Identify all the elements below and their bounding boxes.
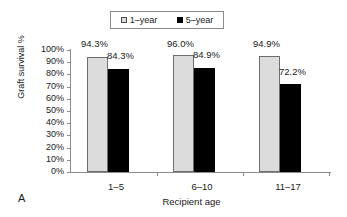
legend-label-5-year: 5–year	[186, 16, 214, 25]
x-axis-title: Recipient age	[0, 196, 347, 207]
bar-5year-group-11-17	[280, 84, 301, 172]
y-tick-label-30: 30%	[46, 129, 64, 139]
y-tick-label-100: 100%	[41, 44, 64, 54]
bar-1year-group-11-17	[259, 56, 280, 172]
bar-1year-group-6-10	[173, 55, 194, 172]
bar-1year-group-1-5	[87, 57, 108, 172]
bar-value-1year-group-6-10: 96.0%	[167, 38, 194, 49]
y-tick-label-80: 80%	[46, 68, 64, 78]
bar-value-5year-group-11-17: 72.2%	[279, 66, 306, 77]
x-tick-label-6-10: 6–10	[173, 181, 231, 192]
y-tick-label-40: 40%	[46, 117, 64, 127]
panel-label: A	[18, 192, 25, 204]
x-tick-label-1-5: 1–5	[87, 181, 145, 192]
legend-swatch-dark-icon	[177, 17, 183, 23]
y-tick-label-70: 70%	[46, 81, 64, 91]
y-tick-label-60: 60%	[46, 93, 64, 103]
bar-value-1year-group-1-5: 94.3%	[81, 38, 108, 49]
bar-value-5year-group-1-5: 84.3%	[107, 50, 134, 61]
y-tick-label-20: 20%	[46, 142, 64, 152]
x-separator-tick-2	[243, 172, 244, 176]
plot-area: 0% 10% 20% 30% 40% 50% 60% 70%	[71, 50, 330, 172]
x-separator-tick-3	[329, 172, 330, 176]
bar-5year-group-1-5	[108, 69, 129, 172]
legend-swatch-light-icon	[121, 17, 127, 23]
legend-entry-5-year: 5–year	[177, 16, 214, 25]
y-tick-label-0: 0%	[51, 166, 64, 176]
y-tick-label-90: 90%	[46, 56, 64, 66]
bar-value-1year-group-11-17: 94.9%	[253, 38, 280, 49]
y-tick-label-10: 10%	[46, 154, 64, 164]
chart-legend: 1–year 5–year	[110, 11, 224, 29]
y-axis-title: Graft survival %	[16, 12, 26, 122]
bar-5year-group-6-10	[194, 68, 215, 172]
x-tick-label-11-17: 11–17	[259, 181, 317, 192]
legend-label-1-year: 1–year	[130, 16, 158, 25]
x-axis-line	[70, 172, 331, 173]
y-tick-label-50: 50%	[46, 105, 64, 115]
x-separator-tick-1	[157, 172, 158, 176]
bar-value-5year-group-6-10: 84.9%	[193, 49, 220, 60]
chart-figure: 1–year 5–year Graft survival % 0% 10% 20…	[0, 0, 347, 217]
legend-entry-1-year: 1–year	[121, 16, 158, 25]
